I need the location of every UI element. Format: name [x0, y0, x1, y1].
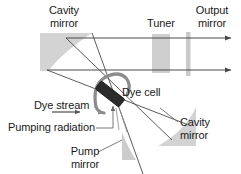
- dye-laser-diagram: Cavity mirror Tuner Output mirror Dye ce…: [0, 0, 241, 174]
- label-cavity-mirror-top: Cavity mirror: [36, 4, 92, 29]
- tuner-shape: [152, 34, 170, 73]
- output-mirror-shape: [186, 32, 191, 76]
- label-pump-mirror: Pump mirror: [60, 145, 110, 170]
- label-pumping-radiation: Pumping radiation: [8, 121, 95, 134]
- label-dye-stream: Dye stream: [34, 99, 89, 112]
- dye-cell-shape: [95, 81, 125, 107]
- pump-ray-b: [116, 108, 119, 130]
- dye-stream-flow-tip: [96, 107, 104, 113]
- label-cavity-mirror-bottom: Cavity mirror: [180, 116, 210, 141]
- label-output-mirror: Output mirror: [186, 4, 238, 29]
- label-tuner: Tuner: [147, 17, 175, 30]
- cavity-mirror-top-shape: [40, 33, 92, 71]
- label-dye-cell: Dye cell: [122, 86, 160, 99]
- pump-ray-c: [120, 110, 127, 132]
